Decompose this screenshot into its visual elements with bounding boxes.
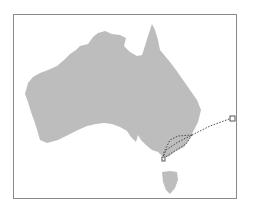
- tasmania: [162, 171, 178, 194]
- offshore-endpoint-marker[interactable]: [230, 116, 235, 121]
- mainland-australia: [25, 24, 201, 157]
- mainland-endpoint-marker[interactable]: [162, 157, 165, 161]
- australia-map[interactable]: [0, 0, 254, 214]
